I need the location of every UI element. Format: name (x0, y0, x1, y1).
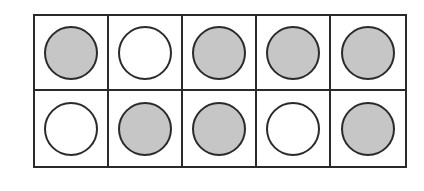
empty-counter-icon (44, 102, 98, 156)
filled-counter-icon (341, 26, 395, 80)
filled-counter-icon (192, 102, 246, 156)
frame-cell (109, 91, 183, 166)
frame-cell (257, 16, 331, 91)
frame-cell (35, 91, 109, 166)
frame-cell (331, 91, 405, 166)
filled-counter-icon (266, 26, 320, 80)
frame-cell (183, 16, 257, 91)
frame-cell (331, 16, 405, 91)
frame-cell (183, 91, 257, 166)
filled-counter-icon (192, 26, 246, 80)
frame-cell (35, 16, 109, 91)
frame-cell (257, 91, 331, 166)
empty-counter-icon (266, 102, 320, 156)
filled-counter-icon (118, 102, 172, 156)
frame-cell (109, 16, 183, 91)
filled-counter-icon (44, 26, 98, 80)
empty-counter-icon (118, 26, 172, 80)
ten-frame-grid (33, 14, 407, 168)
filled-counter-icon (341, 102, 395, 156)
